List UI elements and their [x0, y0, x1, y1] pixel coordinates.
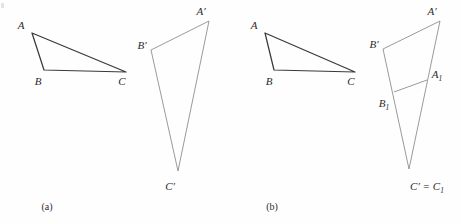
triangle-abc-outline	[265, 33, 355, 72]
panel-a: A B C A′ B′ C′ (a)	[17, 5, 209, 213]
triangle-abc-outline	[32, 33, 126, 72]
vertex-label-c-prime-equals-c1: C′ = C1	[410, 180, 444, 195]
vertex-label-c: C	[347, 75, 355, 87]
vertex-label-b: B	[266, 75, 273, 87]
panel-b: A B C A′ B′ A1 B1 C′ = C1 (b)	[250, 5, 444, 213]
figure-canvas: A B C A′ B′ C′ (a) A B C	[0, 0, 461, 224]
panel-caption-b: (b)	[266, 201, 278, 213]
vertex-label-b: B	[35, 75, 42, 87]
vertex-label-b-prime: B′	[369, 38, 379, 50]
vertex-label-b-prime: B′	[137, 39, 147, 51]
vertex-label-c: C	[118, 75, 126, 87]
triangle-a-prime-outline	[383, 21, 440, 169]
panel-b-triangle-abc: A B C	[250, 19, 356, 87]
vertex-label-b1: B1	[379, 97, 389, 112]
triangle-a-prime-outline	[151, 21, 209, 171]
panel-a-triangle-a-prime-b-prime-c-prime: A′ B′ C′	[137, 5, 209, 192]
panel-caption-a: (a)	[41, 201, 52, 213]
segment-b1-a1	[394, 80, 427, 92]
panel-a-triangle-abc: A B C	[17, 19, 127, 87]
panel-b-triangle-a-prime-b-prime-c-prime: A′ B′ A1 B1 C′ = C1	[369, 5, 443, 195]
vertex-label-a-prime: A′	[195, 5, 206, 17]
vertex-label-a: A	[17, 19, 25, 31]
geometry-figure: A B C A′ B′ C′ (a) A B C	[0, 0, 461, 224]
vertex-label-c-prime: C′	[165, 180, 175, 192]
scan-artifact-speck	[1, 3, 4, 8]
vertex-label-a: A	[250, 19, 258, 31]
vertex-label-a-prime: A′	[426, 5, 437, 17]
vertex-label-a1: A1	[431, 68, 442, 83]
